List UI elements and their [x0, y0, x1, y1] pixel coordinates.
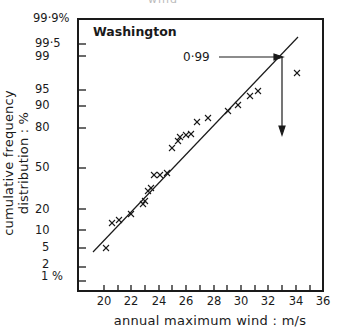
point-marker: [148, 185, 154, 191]
arrowhead-down-icon: [279, 126, 285, 135]
x-tick-label-28: 28: [202, 296, 226, 308]
point-marker: [116, 217, 122, 223]
x-tick-label-26: 26: [174, 296, 198, 308]
y-tick-label-80: 80: [35, 122, 50, 134]
x-axis-label: annual maximum wind : m/s: [80, 313, 338, 328]
point-marker: [109, 220, 115, 226]
y-tick-label-20: 20: [35, 204, 50, 216]
point-marker: [151, 172, 157, 178]
point-marker: [188, 131, 194, 137]
y-tick-label-99.9: 99·9%: [33, 13, 70, 25]
point-marker: [194, 119, 200, 125]
x-tick-label-36: 36: [311, 296, 335, 308]
y-tick-label-90: 90: [35, 100, 50, 112]
point-marker: [140, 201, 146, 207]
y-tick-label-1: 1 %: [41, 271, 63, 283]
point-marker: [255, 88, 261, 94]
x-tick-label-32: 32: [256, 296, 280, 308]
y-tick-label-95: 95: [35, 84, 50, 96]
point-marker: [157, 172, 163, 178]
panel-title: Washington: [93, 24, 177, 39]
y-axis-label: cumulative frequency distribution : %: [1, 63, 31, 263]
x-tick-label-34: 34: [284, 296, 308, 308]
point-marker: [247, 93, 253, 99]
x-tick-label-22: 22: [119, 296, 143, 308]
point-marker: [169, 145, 175, 151]
point-marker: [103, 245, 109, 251]
point-marker-outlier: [294, 70, 300, 76]
y-tick-label-99: 99: [35, 51, 50, 63]
y-tick-label-5: 5: [42, 242, 49, 254]
point-marker: [142, 198, 148, 204]
y-tick-label-50: 50: [35, 162, 50, 174]
x-tick-label-20: 20: [92, 296, 116, 308]
y-tick-label-99.5: 99·5: [35, 38, 61, 50]
y-tick-label-10: 10: [35, 225, 50, 237]
point-marker: [205, 115, 211, 121]
point-marker: [235, 102, 241, 108]
x-tick-label-24: 24: [147, 296, 171, 308]
y-ticks: [78, 44, 86, 281]
annotation-label: 0·99: [183, 50, 210, 64]
point-marker: [225, 108, 231, 114]
data-points: [103, 70, 300, 251]
x-tick-label-30: 30: [229, 296, 253, 308]
fitted-line: [93, 37, 298, 252]
